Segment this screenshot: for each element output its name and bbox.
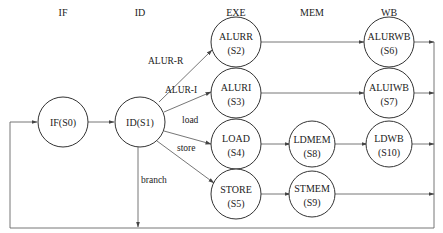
svg-text:(S7): (S7) [380, 96, 397, 108]
stage-if: IF [59, 7, 68, 18]
state-machine-diagram: IF ID EXE MEM WB [0, 0, 443, 233]
stage-headers: IF ID EXE MEM WB [59, 7, 398, 18]
node-s4: LOAD (S4) [211, 119, 261, 169]
svg-text:(S8): (S8) [303, 148, 320, 160]
node-s1: ID(S1) [115, 97, 165, 147]
svg-text:LDMEM: LDMEM [293, 134, 330, 145]
svg-text:ALUIWB: ALUIWB [369, 82, 409, 93]
svg-text:(S3): (S3) [227, 96, 244, 108]
svg-text:ALURR: ALURR [219, 31, 253, 42]
svg-text:(S4): (S4) [227, 147, 244, 159]
nodes: IF(S0) ID(S1) ALURR (S2) ALURI (S3) LOAD… [38, 17, 414, 219]
node-s3: ALURI (S3) [211, 68, 261, 118]
svg-text:ALURI: ALURI [221, 82, 252, 93]
svg-text:LDWB: LDWB [374, 133, 404, 144]
edge-label-branch: branch [141, 175, 167, 185]
node-s9: STMEM (S9) [289, 171, 335, 217]
svg-text:(S9): (S9) [303, 197, 320, 209]
svg-text:ID(S1): ID(S1) [126, 117, 154, 129]
svg-text:ALURWB: ALURWB [368, 31, 411, 42]
svg-text:IF(S0): IF(S0) [50, 117, 76, 129]
node-s10: LDWB (S10) [366, 121, 412, 167]
node-s2: ALURR (S2) [211, 17, 261, 67]
stage-wb: WB [381, 7, 397, 18]
edge-label-alur-i: ALUR-I [165, 85, 197, 95]
edge-label-alur-r: ALUR-R [148, 56, 184, 66]
svg-text:(S5): (S5) [227, 198, 244, 210]
stage-id: ID [135, 7, 146, 18]
node-s7: ALUIWB (S7) [364, 68, 414, 118]
svg-text:STMEM: STMEM [294, 183, 330, 194]
node-s5: STORE (S5) [211, 169, 261, 219]
edge-s1-s3 [164, 92, 211, 112]
node-s6: ALURWB (S6) [364, 17, 414, 67]
edge-label-store: store [177, 143, 195, 153]
node-s0: IF(S0) [38, 97, 88, 147]
stage-exe: EXE [226, 7, 245, 18]
svg-text:(S10): (S10) [378, 147, 400, 159]
svg-text:(S6): (S6) [380, 45, 397, 57]
svg-text:STORE: STORE [220, 184, 252, 195]
svg-text:LOAD: LOAD [222, 133, 250, 144]
edge-label-load: load [182, 115, 199, 125]
node-s8: LDMEM (S8) [289, 121, 335, 167]
svg-text:(S2): (S2) [227, 45, 244, 57]
stage-mem: MEM [300, 7, 324, 18]
